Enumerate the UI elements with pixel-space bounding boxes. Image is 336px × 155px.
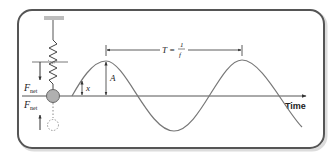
- amplitude-label: A: [109, 73, 116, 83]
- ceiling-plate: [44, 16, 64, 20]
- displacement-label: x: [85, 83, 90, 93]
- frame-box: [18, 10, 326, 150]
- svg-text:1: 1: [180, 41, 184, 49]
- svg-text:T =: T =: [162, 45, 175, 55]
- mass-ball: [47, 90, 60, 103]
- shm-diagram: Fnet Time Fnet x A T = 1 f: [0, 0, 336, 155]
